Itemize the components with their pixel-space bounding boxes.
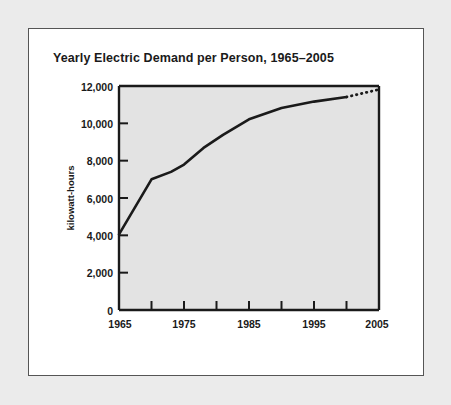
y-axis-tick-labels: 12,000 10,000 8,000 6,000 4,000 2,000 0: [81, 81, 113, 317]
y-tick-label-6000: 6,000: [87, 193, 113, 205]
y-tick-label-8000: 8,000: [87, 155, 113, 167]
y-tick-label-0: 0: [107, 305, 113, 317]
x-tick-label-1995: 1995: [302, 318, 326, 330]
line-chart: 12,000 10,000 8,000 6,000 4,000 2,000 0 …: [29, 29, 425, 377]
y-tick-label-4000: 4,000: [87, 230, 113, 242]
y-tick-label-2000: 2,000: [87, 267, 113, 279]
y-tick-label-12000: 12,000: [81, 81, 113, 93]
y-axis-label: kilowatt-hours: [65, 166, 76, 231]
x-tick-label-1985: 1985: [237, 318, 261, 330]
figure-frame: Yearly Electric Demand per Person, 1965–…: [28, 28, 424, 376]
x-axis-tick-labels: 1965 1975 1985 1995 2005: [108, 318, 389, 330]
x-tick-label-1975: 1975: [172, 318, 196, 330]
x-tick-label-1965: 1965: [108, 318, 132, 330]
x-tick-label-2005: 2005: [365, 318, 389, 330]
y-tick-label-10000: 10,000: [81, 118, 113, 130]
